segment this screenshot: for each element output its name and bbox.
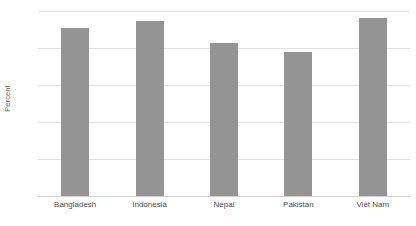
y-axis-title: Percent	[0, 0, 14, 196]
bar-series	[38, 11, 410, 196]
bar	[136, 21, 164, 196]
bar	[61, 28, 89, 196]
gridline	[38, 196, 410, 197]
x-axis-category-labels: BangladeshIndonesiaNepalPakistanViet Nam	[38, 200, 410, 220]
bar-chart: Percent 020406080100 BangladeshIndonesia…	[0, 0, 416, 226]
bar	[359, 18, 387, 196]
x-axis-category-label: Viet Nam	[328, 200, 416, 209]
y-axis-title-label: Percent	[3, 85, 12, 112]
bar	[210, 43, 238, 196]
plot-area: 020406080100	[38, 11, 410, 196]
bar	[284, 52, 312, 196]
